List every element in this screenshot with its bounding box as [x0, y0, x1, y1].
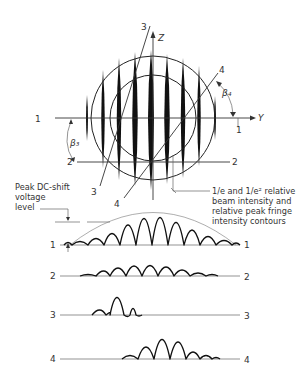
peak-dc-note-line3: level: [15, 202, 34, 212]
trace3-right-label: 3: [244, 311, 250, 321]
line2-right-label: 2: [232, 157, 238, 167]
z-axis-arrow-icon: [151, 31, 156, 38]
line1-left-label: 1: [35, 114, 41, 124]
contour-leader: [173, 155, 210, 191]
peak-dc-note-line1: Peak DC-shift: [15, 182, 70, 192]
line3-bottom-label: 3: [91, 187, 97, 197]
trace2-right-label: 2: [244, 272, 250, 282]
peak-dc-note-line2: voltage: [15, 192, 46, 202]
scan-line-4: [124, 73, 218, 198]
trace1-right-label: 1: [244, 240, 250, 250]
trace3-left-label: 3: [50, 310, 56, 320]
y-axis-arrow-icon: [250, 116, 256, 121]
contour-note-line1: 1/e and 1/e² relative: [212, 186, 295, 196]
contour-note-line2: beam intensity and: [212, 196, 291, 206]
line1-right-label: 1: [236, 125, 242, 135]
trace2-left-label: 2: [50, 271, 56, 281]
fringe-diagram: Y Z 3 4 1 1 2 2 3 4 β₃ β₄ 1/e and 1/e² r…: [0, 0, 305, 382]
line4-bottom-label: 4: [114, 199, 120, 209]
trace4-signal: [122, 340, 220, 360]
z-axis-label: Z: [157, 33, 165, 43]
trace2-signal: [80, 266, 218, 277]
trace1-left-label: 1: [50, 240, 56, 250]
contour-note-line4: intensity contours: [212, 216, 286, 226]
contour-note-line3: relative peak fringe: [212, 206, 292, 216]
trace4-left-label: 4: [50, 354, 56, 364]
line3-top-label: 3: [141, 22, 147, 32]
line4-top-label: 4: [219, 65, 225, 75]
beta3-label: β₃: [69, 138, 80, 148]
beta4-label: β₄: [221, 88, 232, 98]
trace3-signal: [92, 298, 142, 317]
trace4-right-label: 4: [244, 355, 250, 365]
y-axis-label: Y: [258, 113, 265, 123]
